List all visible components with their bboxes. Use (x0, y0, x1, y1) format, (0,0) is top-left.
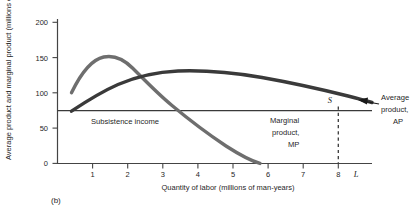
x-tick-label-4: 4 (196, 170, 200, 179)
x-axis-title: Quantity of labor (millions of man-years… (162, 183, 295, 192)
y-axis-ticks: 200 150 100 50 0 (35, 18, 57, 168)
average-product-label-line1: Average (381, 93, 409, 102)
x-tick-label-2: 2 (126, 170, 130, 179)
average-product-label-line3: AP (393, 117, 403, 126)
panel-label: (b) (51, 196, 61, 205)
x-tick-label-7: 7 (301, 170, 305, 179)
equilibrium-point-label: S (328, 95, 333, 105)
y-tick-label-0: 0 (44, 159, 48, 168)
y-tick-label-50: 50 (40, 124, 48, 133)
marginal-product-label-line2: product, (272, 128, 299, 137)
y-tick-label-100: 100 (35, 89, 48, 98)
y-tick-label-200: 200 (35, 18, 48, 27)
x-tick-label-3: 3 (161, 170, 165, 179)
x-tick-label-1: 1 (91, 170, 95, 179)
marginal-product-label-line1: Marginal (270, 116, 299, 125)
y-tick-label-150: 150 (35, 54, 48, 63)
average-product-curve (72, 71, 373, 111)
y-axis-title: Average product and marginal product (mi… (4, 0, 13, 160)
x-tick-label-5: 5 (231, 170, 235, 179)
x-tick-label-8: 8 (336, 170, 340, 179)
labor-equilibrium-tick-label: L (353, 169, 359, 179)
x-axis-ticks: 1 2 3 4 5 6 7 8 (91, 164, 341, 180)
average-product-label-line2: product, (381, 105, 408, 114)
economics-chart: 200 150 100 50 0 1 2 3 4 5 6 7 8 (0, 0, 417, 212)
subsistence-income-label: Subsistence income (91, 117, 159, 126)
figure-panel-b: 200 150 100 50 0 1 2 3 4 5 6 7 8 (0, 0, 417, 212)
marginal-product-label-line3: MP (288, 140, 299, 149)
x-tick-label-6: 6 (266, 170, 270, 179)
